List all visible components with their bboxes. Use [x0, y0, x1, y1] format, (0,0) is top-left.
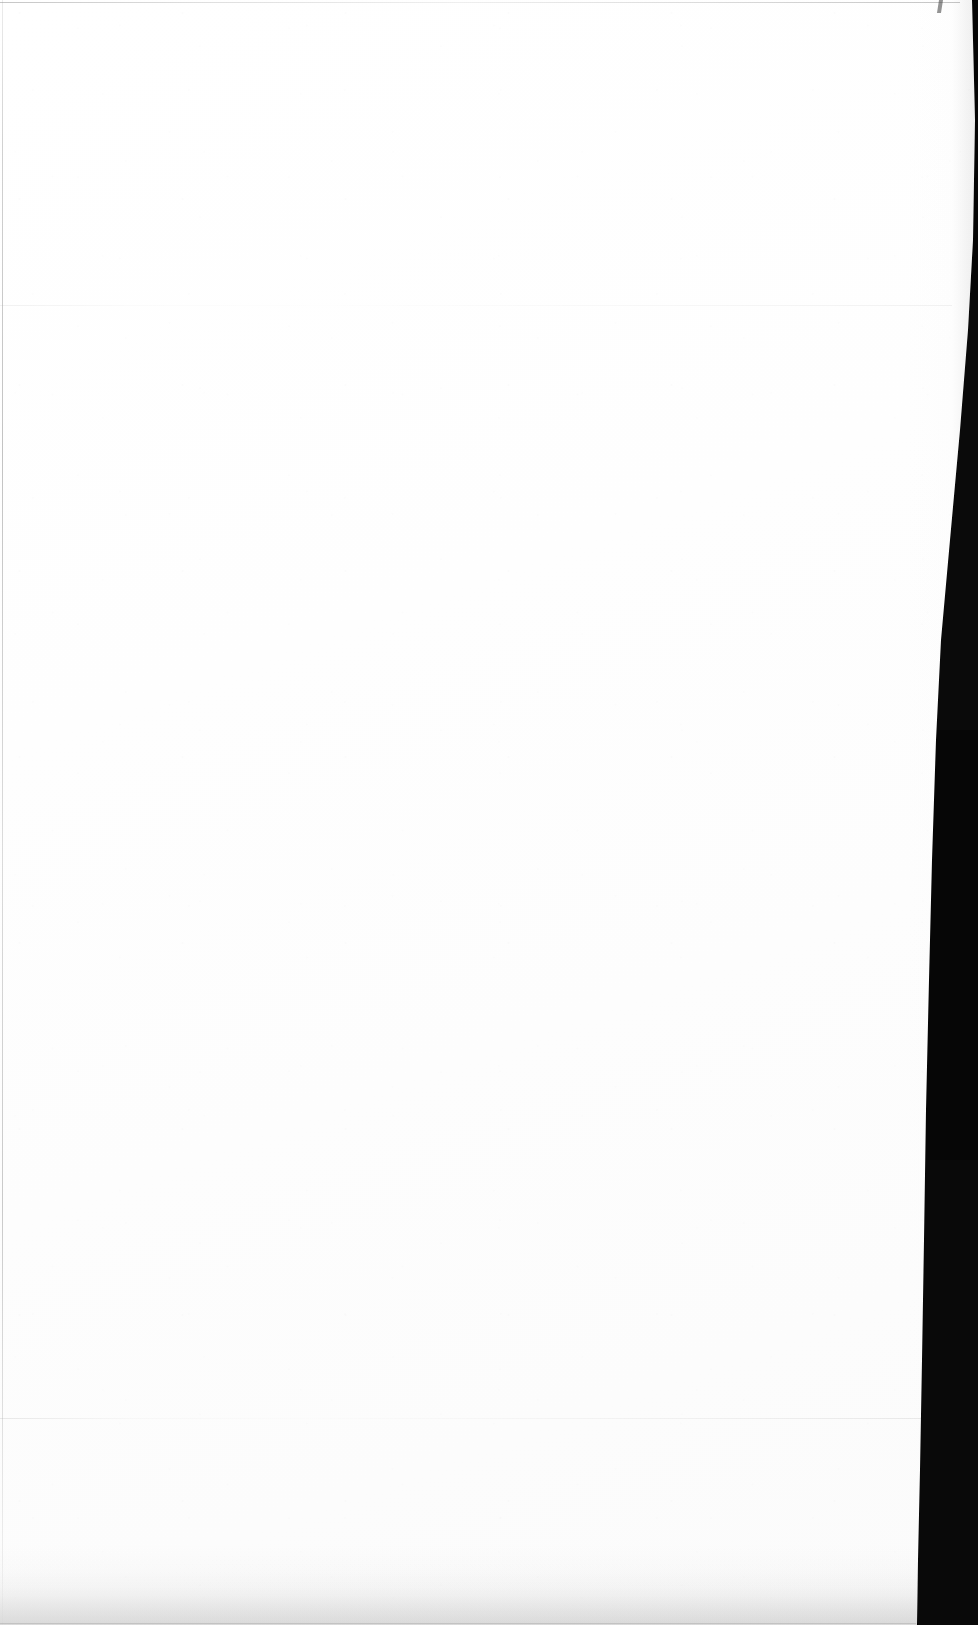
- page-left-edge-line: [2, 0, 3, 1625]
- page-top-edge-line: [0, 2, 960, 3]
- page-crease-lower: [0, 1418, 926, 1419]
- paper-grain-texture: [0, 0, 978, 1625]
- page-bottom-shadow: [0, 1553, 920, 1625]
- paper-leaf: [0, 0, 978, 1625]
- page-bottom-edge-line: [0, 1623, 916, 1624]
- page-crease-upper: [0, 305, 952, 306]
- gutter-band-bottom: [918, 1160, 978, 1625]
- scanned-page-view: [0, 0, 978, 1625]
